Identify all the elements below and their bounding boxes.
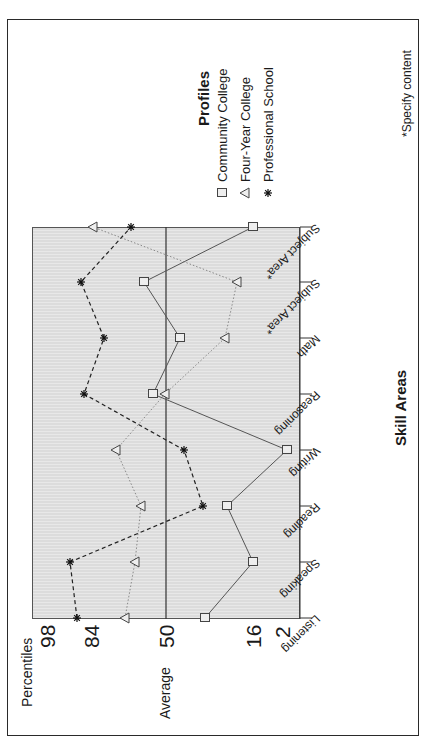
triangle-marker [120,613,129,623]
triangle-marker [111,445,120,455]
series-line [93,227,237,618]
x-axis-title: Skill Areas [392,370,409,446]
star-marker [66,558,74,566]
square-marker [223,502,232,510]
footnote: *Specify content [400,50,414,137]
legend-item-four-year-college: Four-Year College [238,77,253,182]
star-marker [264,189,272,197]
star-marker [73,614,81,622]
star-marker [77,278,85,286]
square-marker [149,390,158,398]
square-marker [249,558,258,566]
square-marker [201,614,210,622]
star-marker [100,334,108,342]
square-marker [140,278,149,286]
legend-title: Profiles [195,71,212,126]
legend-item-community-college: Community College [215,69,230,182]
star-marker [80,390,88,398]
triangle-marker [232,277,241,287]
square-marker [249,223,258,231]
legend-item-professional-school: Professional School [261,67,276,182]
chart-svg [0,0,424,752]
tick-98: 98 [36,625,60,648]
star-marker [180,446,188,454]
square-marker [283,446,292,454]
triangle-marker [88,222,97,232]
y-axis-title: Percentiles [19,638,35,707]
average-label: Average [157,667,173,719]
star-marker [127,223,135,231]
square-marker [218,189,227,197]
triangle-marker [240,188,249,198]
star-marker [199,502,207,510]
tick-16: 16 [242,625,266,648]
tick-84: 84 [80,625,104,648]
tick-50: 50 [155,625,179,648]
square-marker [176,334,185,342]
